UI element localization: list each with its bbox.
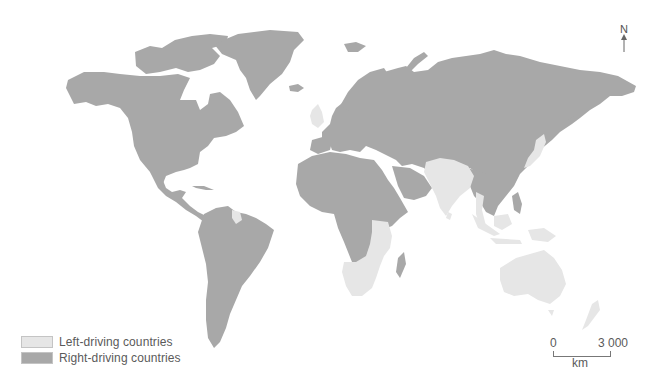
region-new-zealand: [582, 300, 600, 330]
region-arctic-islands: [135, 34, 228, 74]
left-driving-swatch: [21, 336, 53, 348]
right-driving-swatch: [21, 352, 53, 364]
north-arrow: N: [617, 24, 631, 54]
region-madagascar: [396, 252, 406, 278]
region-north-america: [66, 72, 244, 186]
region-africa: [296, 152, 408, 262]
region-iceland: [289, 84, 304, 92]
region-java: [490, 238, 522, 244]
region-new-guinea: [528, 228, 556, 242]
region-central-america: [150, 172, 210, 222]
legend-item-right-driving: Right-driving countries: [21, 350, 181, 366]
region-australia: [500, 250, 566, 304]
legend-label: Left-driving countries: [59, 335, 173, 349]
scale-bar: 0 3 000 km: [548, 336, 638, 376]
world-map: [0, 0, 648, 385]
region-borneo: [494, 214, 512, 230]
region-uk-ireland: [310, 104, 324, 128]
region-south-america: [198, 206, 274, 348]
north-label: N: [617, 24, 631, 35]
legend-item-left-driving: Left-driving countries: [21, 334, 181, 350]
region-philippines: [512, 192, 522, 214]
scale-unit: km: [572, 356, 588, 370]
region-india: [424, 158, 474, 216]
scale-start: 0: [550, 336, 557, 350]
legend: Left-driving countries Right-driving cou…: [21, 334, 181, 366]
region-svalbard: [344, 42, 366, 52]
scale-end: 3 000: [598, 336, 628, 350]
region-novaya-zemlya: [406, 52, 428, 72]
region-tasmania: [548, 310, 554, 316]
legend-label: Right-driving countries: [59, 351, 181, 365]
region-caribbean: [192, 186, 214, 190]
